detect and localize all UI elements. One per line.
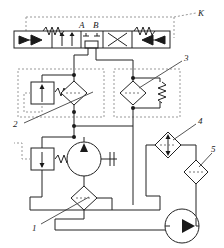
callout-3-label: 3 [183, 53, 189, 63]
filter-left[interactable] [61, 81, 87, 105]
relief-valve-left[interactable] [31, 82, 54, 104]
pump[interactable] [165, 209, 199, 243]
return-rails [30, 197, 170, 230]
callout-5-label: 5 [211, 144, 216, 154]
port-a-label: A [78, 20, 85, 30]
right-control-block [114, 69, 180, 117]
port-b-label: B [93, 20, 99, 30]
callout-4: 4 [173, 116, 203, 140]
relief-valve-lower[interactable] [31, 148, 54, 170]
junction-dot [131, 76, 135, 80]
spring-right [158, 82, 166, 103]
filter-five[interactable] [184, 160, 208, 184]
callout-k-label: K [197, 8, 205, 18]
junction-dot [72, 135, 76, 139]
hydraulic-circuit-diagram: K [0, 0, 224, 248]
left-control-block [18, 69, 104, 126]
callout-5: 5 [199, 144, 216, 167]
filter-four[interactable] [155, 132, 181, 158]
junction-dot [72, 73, 76, 77]
filter-bottom[interactable] [71, 186, 97, 210]
directional-valve[interactable] [14, 27, 170, 48]
filter-right[interactable] [120, 81, 146, 105]
callout-1-label: 1 [32, 223, 37, 233]
callout-2-label: 2 [13, 119, 18, 129]
callout-3: 3 [139, 53, 189, 88]
callout-4-label: 4 [198, 116, 203, 126]
hydraulic-motor[interactable] [67, 137, 117, 186]
diagram-canvas: K [0, 0, 224, 248]
